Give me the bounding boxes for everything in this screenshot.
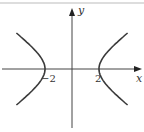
y-axis-label: y [77, 4, 85, 17]
x-axis-label: x [136, 72, 143, 85]
hyperbola-figure: x y −2 2 [0, 0, 144, 132]
y-axis-arrow-icon [69, 8, 75, 16]
